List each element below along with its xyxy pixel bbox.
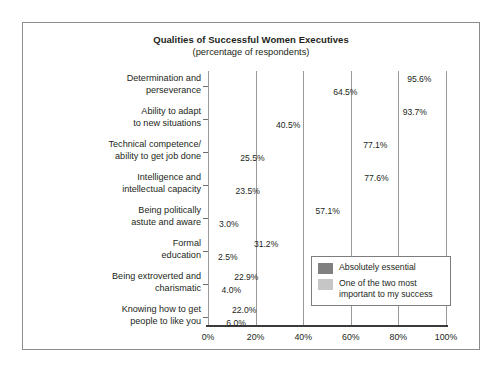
bar-value-label: 25.5% [238, 153, 266, 163]
bar-value-label: 95.6% [405, 74, 433, 84]
category-group: Intelligence and intellectual capacity 7… [208, 170, 446, 202]
category-group: Ability to adapt to new situations 93.7%… [208, 104, 446, 136]
bar-important: 4.0% [208, 284, 218, 295]
category-group: Determination and perseverance 95.6% 64.… [208, 71, 446, 103]
bar-essential: 31.2% [208, 238, 282, 249]
bar-essential: 77.6% [208, 172, 393, 183]
category-label: Intelligence and intellectual capacity [122, 172, 201, 195]
category-label: Formal education [162, 238, 201, 261]
bar-value-label: 4.0% [220, 285, 244, 295]
bar-value-label: 93.7% [401, 107, 429, 117]
category-group: Being politically astute and aware 57.1%… [208, 203, 446, 235]
legend-item-important: One of the two most important to my succ… [318, 278, 444, 299]
x-tick-label: 60% [342, 331, 360, 343]
page-title: Qualities of Successful Women Executives [23, 34, 479, 46]
bar-important: 40.5% [208, 119, 304, 130]
category-label: Being politically astute and aware [131, 205, 201, 228]
bar-value-label: 40.5% [274, 120, 302, 130]
category-label-line: to new situations [133, 118, 201, 130]
category-label: Ability to adapt to new situations [133, 106, 201, 129]
category-label-line: ability to get job done [108, 151, 201, 163]
category-label-line: astute and aware [131, 217, 201, 229]
category-label-line: Knowing how to get [122, 304, 201, 316]
category-label-line: intellectual capacity [122, 184, 201, 196]
category-group: Knowing how to get people to like you 22… [208, 302, 446, 334]
category-label-line: education [162, 250, 201, 262]
bar-essential: 77.1% [208, 139, 392, 150]
bar-essential: 57.1% [208, 205, 344, 216]
bar-value-label: 57.1% [314, 206, 342, 216]
category-label: Technical competence/ ability to get job… [108, 139, 201, 162]
bar-value-label: 22.0% [230, 305, 258, 315]
bar-important: 2.5% [208, 251, 214, 262]
bar-essential: 93.7% [208, 106, 431, 117]
x-tick-label: 80% [390, 331, 408, 343]
x-tick-label: 20% [247, 331, 265, 343]
bar-important: 3.0% [208, 218, 215, 229]
x-axis-tick-labels: 0% 20% 40% 60% 80% 100% [208, 331, 446, 347]
category-label-line: Determination and [127, 73, 201, 85]
bar-value-label: 77.1% [361, 140, 389, 150]
chart-figure: Qualities of Successful Women Executives… [22, 22, 480, 350]
category-label-line: people to like you [122, 316, 201, 328]
category-label-line: Formal [162, 238, 201, 250]
bar-essential: 22.0% [208, 304, 260, 315]
bar-value-label: 6.0% [224, 318, 248, 328]
category-label: Determination and perseverance [127, 73, 201, 96]
category-label-line: Being politically [131, 205, 201, 217]
legend-label: Absolutely essential [339, 262, 416, 273]
x-tick-label: 40% [294, 331, 312, 343]
bar-essential: 22.9% [208, 271, 263, 282]
bar-important: 6.0% [208, 317, 222, 328]
legend-label: One of the two most important to my succ… [339, 278, 433, 299]
bar-essential: 95.6% [208, 73, 436, 84]
category-label: Being extroverted and charismatic [112, 271, 201, 294]
bar-important: 64.5% [208, 86, 362, 97]
legend-label-line: One of the two most [339, 278, 433, 289]
category-label-line: perseverance [127, 85, 201, 97]
bar-value-label: 77.6% [362, 173, 390, 183]
bar-important: 25.5% [208, 152, 269, 163]
category-group: Technical competence/ ability to get job… [208, 137, 446, 169]
x-tick-label: 0% [202, 331, 215, 343]
category-label-line: Intelligence and [122, 172, 201, 184]
bar-value-label: 23.5% [234, 186, 262, 196]
bar-important: 23.5% [208, 185, 264, 196]
chart-legend: Absolutely essential One of the two most… [311, 256, 451, 306]
chart-subtitle: (percentage of respondents) [23, 46, 479, 58]
legend-label-line: important to my success [339, 289, 433, 300]
bar-value-label: 3.0% [217, 219, 241, 229]
category-label-line: Ability to adapt [133, 106, 201, 118]
category-label: Knowing how to get people to like you [122, 304, 201, 327]
legend-swatch-icon [318, 263, 333, 274]
chart-title-block: Qualities of Successful Women Executives… [23, 34, 479, 58]
category-label-line: Being extroverted and [112, 271, 201, 283]
x-tick-label: 100% [435, 331, 458, 343]
bar-value-label: 31.2% [252, 239, 280, 249]
legend-swatch-icon [318, 279, 333, 290]
bar-value-label: 22.9% [232, 272, 260, 282]
bar-value-label: 64.5% [331, 87, 359, 97]
legend-item-essential: Absolutely essential [318, 262, 444, 274]
category-label-line: charismatic [112, 283, 201, 295]
bar-value-label: 2.5% [216, 252, 240, 262]
category-label-line: Technical competence/ [108, 139, 201, 151]
legend-label-line: Absolutely essential [339, 262, 416, 273]
